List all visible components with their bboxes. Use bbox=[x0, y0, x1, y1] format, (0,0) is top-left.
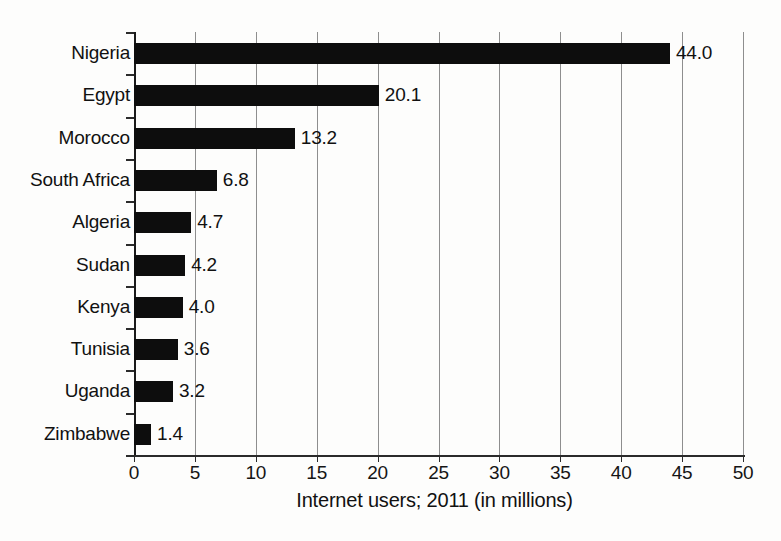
bar-row: 4.0 bbox=[134, 286, 743, 328]
x-axis-tick-label: 10 bbox=[245, 462, 266, 484]
category-label: Algeria bbox=[72, 210, 130, 234]
bar-row: 4.2 bbox=[134, 244, 743, 286]
x-axis-tick bbox=[682, 455, 683, 462]
x-axis-title: Internet users; 2011 (in millions) bbox=[0, 489, 781, 512]
category-label: Kenya bbox=[77, 295, 130, 319]
x-axis-tick-label: 50 bbox=[733, 462, 754, 484]
bar bbox=[134, 424, 151, 445]
bar-row: 13.2 bbox=[134, 117, 743, 159]
x-axis-tick bbox=[439, 455, 440, 462]
x-axis-tick-label: 40 bbox=[611, 462, 632, 484]
x-axis-tick bbox=[256, 455, 257, 462]
bar-value-label: 3.2 bbox=[179, 379, 205, 403]
y-axis-tick bbox=[126, 244, 134, 246]
x-axis-title-text: Internet users; 2011 (in millions) bbox=[208, 489, 572, 511]
category-label: Tunisia bbox=[71, 337, 130, 361]
x-axis-tick-label: 35 bbox=[550, 462, 571, 484]
x-axis-tick-label: 45 bbox=[672, 462, 693, 484]
y-axis-tick bbox=[126, 159, 134, 161]
x-axis-tick-label: 0 bbox=[129, 462, 139, 484]
category-label: Uganda bbox=[65, 379, 130, 403]
x-axis-tick-label: 5 bbox=[190, 462, 200, 484]
y-axis-tick bbox=[126, 413, 134, 415]
category-label: Egypt bbox=[82, 83, 130, 107]
chart-figure: NigeriaEgyptMoroccoSouth AfricaAlgeriaSu… bbox=[0, 0, 781, 541]
bar-value-label: 13.2 bbox=[301, 126, 337, 150]
x-axis-tick-label: 15 bbox=[306, 462, 327, 484]
x-axis-tick-label: 30 bbox=[489, 462, 510, 484]
bar-row: 44.0 bbox=[134, 32, 743, 74]
category-label: Zimbabwe bbox=[44, 422, 130, 446]
x-axis-tick bbox=[134, 455, 135, 462]
bar-row: 6.8 bbox=[134, 159, 743, 201]
y-axis-tick bbox=[126, 117, 134, 119]
x-axis-tick bbox=[743, 455, 744, 462]
bar-value-label: 20.1 bbox=[385, 83, 421, 107]
bar-value-label: 44.0 bbox=[676, 41, 712, 65]
bar-row: 3.2 bbox=[134, 370, 743, 412]
category-label: Morocco bbox=[59, 126, 130, 150]
x-axis-tick bbox=[195, 455, 196, 462]
bar bbox=[134, 170, 217, 191]
category-label: Nigeria bbox=[71, 41, 130, 65]
bar bbox=[134, 381, 173, 402]
x-axis-tick bbox=[378, 455, 379, 462]
x-axis-tick bbox=[621, 455, 622, 462]
bar-row: 1.4 bbox=[134, 413, 743, 455]
plot-area: 44.020.113.26.84.74.24.03.63.21.4 bbox=[134, 32, 743, 455]
bar-value-label: 6.8 bbox=[223, 168, 249, 192]
bar bbox=[134, 255, 185, 276]
y-axis-tick bbox=[126, 74, 134, 76]
bar bbox=[134, 85, 379, 106]
y-axis-category-labels: NigeriaEgyptMoroccoSouth AfricaAlgeriaSu… bbox=[0, 32, 130, 455]
bar-row: 3.6 bbox=[134, 328, 743, 370]
bar-value-label: 4.7 bbox=[197, 210, 223, 234]
y-axis-tick bbox=[126, 286, 134, 288]
x-axis-tick bbox=[499, 455, 500, 462]
bar bbox=[134, 339, 178, 360]
x-axis-tick bbox=[560, 455, 561, 462]
x-axis-tick-label: 20 bbox=[367, 462, 388, 484]
category-label: Sudan bbox=[76, 253, 130, 277]
x-axis-tick bbox=[317, 455, 318, 462]
category-label: South Africa bbox=[30, 168, 130, 192]
bar bbox=[134, 128, 295, 149]
bar-value-label: 4.0 bbox=[189, 295, 215, 319]
bar-row: 20.1 bbox=[134, 74, 743, 116]
gridline bbox=[743, 32, 744, 455]
y-axis-tick bbox=[126, 201, 134, 203]
bar-value-label: 4.2 bbox=[191, 253, 217, 277]
bar-row: 4.7 bbox=[134, 201, 743, 243]
bar bbox=[134, 212, 191, 233]
y-axis-tick bbox=[126, 328, 134, 330]
bar-value-label: 3.6 bbox=[184, 337, 210, 361]
y-axis-tick bbox=[126, 32, 134, 34]
y-axis-tick bbox=[126, 370, 134, 372]
bar-value-label: 1.4 bbox=[157, 422, 183, 446]
bar bbox=[134, 43, 670, 64]
x-axis-tick-label: 25 bbox=[428, 462, 449, 484]
bar bbox=[134, 297, 183, 318]
